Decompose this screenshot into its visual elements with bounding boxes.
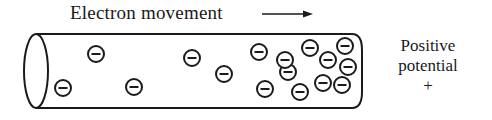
positive-text: Positive xyxy=(378,36,478,56)
plus-sign-icon: + xyxy=(378,76,478,96)
electron-icon xyxy=(251,44,267,60)
electron-icon xyxy=(184,50,200,66)
electron-icon xyxy=(302,40,318,56)
electron-icon xyxy=(257,81,273,97)
electron-icon xyxy=(292,84,308,100)
electron-group xyxy=(55,38,356,100)
positive-potential-label: Positive potential + xyxy=(378,36,478,96)
electron-icon xyxy=(126,79,142,95)
potential-text: potential xyxy=(378,56,478,76)
electron-icon xyxy=(277,52,293,68)
electron-icon xyxy=(334,77,350,93)
right-arrow-icon xyxy=(262,11,313,18)
electron-icon xyxy=(216,66,232,82)
electron-icon xyxy=(55,80,71,96)
electron-icon xyxy=(320,52,336,68)
electron-icon xyxy=(340,59,356,75)
electron-icon xyxy=(337,38,353,54)
electron-icon xyxy=(88,46,104,62)
electron-icon xyxy=(315,75,331,91)
